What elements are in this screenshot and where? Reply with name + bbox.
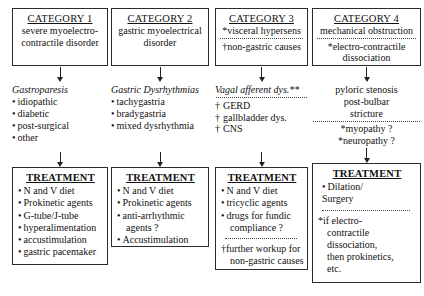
- category-line: †non-gastric causes: [219, 41, 304, 53]
- treatment-item: N and V diet: [221, 185, 303, 197]
- arrow-head: [259, 77, 265, 82]
- category-title: CATEGORY 1: [16, 13, 104, 24]
- category-title: CATEGORY 2: [115, 13, 205, 24]
- middle-block-2: Gastric Dysrhythmias tachygastria bradyg…: [111, 84, 209, 132]
- middle-item: CNS: [215, 123, 308, 135]
- treatment-title: TREATMENT: [221, 172, 303, 184]
- category-line: *visceral hypersens: [219, 25, 304, 37]
- arrow-down-icon: [156, 152, 165, 167]
- middle-item: diabetic: [12, 108, 108, 120]
- flow-column-category-4: CATEGORY 4 mechanical obstruction *elect…: [312, 0, 421, 296]
- middle-item: other: [12, 132, 108, 144]
- middle-block-3: Vagal afferent dys.** GERD gallbladder d…: [215, 84, 308, 135]
- arrow-down-icon: [257, 67, 266, 82]
- dotted-separator: [317, 38, 416, 39]
- category-box-4: CATEGORY 4 mechanical obstruction *elect…: [312, 8, 421, 66]
- arrow-head: [364, 77, 370, 82]
- treatment-item: tricyclic agents: [221, 197, 303, 209]
- arrow-down-icon: [56, 152, 65, 167]
- treatment-note: non-gastric causes: [221, 255, 303, 267]
- middle-item: GERD: [215, 100, 308, 112]
- flowchart-canvas: CATEGORY 1 severe myoelectro- contractil…: [0, 0, 424, 296]
- treatment-note: dissociation,: [318, 239, 416, 251]
- middle-item: *myopathy ?: [312, 123, 421, 135]
- treatment-item: Prokinetic agents: [117, 197, 204, 209]
- category-line: mechanical obstruction: [316, 25, 417, 37]
- arrow-down-icon: [362, 67, 371, 82]
- middle-block-1: Gastroparesis idiopathic diabetic post-s…: [12, 84, 108, 143]
- middle-item: mixed dysrhythmia: [111, 120, 209, 132]
- middle-item: post-surgical: [12, 120, 108, 132]
- treatment-item: Accustimulation: [117, 234, 204, 246]
- middle-item: tachygastria: [111, 96, 209, 108]
- treatment-title: TREATMENT: [117, 172, 204, 184]
- middle-item: gallbladder dys.: [215, 112, 308, 124]
- category-line: disorder: [115, 37, 205, 49]
- category-title: CATEGORY 3: [219, 13, 304, 24]
- treatment-note: †further workup for: [221, 243, 303, 255]
- treatment-title: TREATMENT: [318, 168, 416, 180]
- category-line: severe myoelectro-: [16, 25, 104, 37]
- category-line: contractile disorder: [16, 37, 104, 49]
- category-box-2: CATEGORY 2 gastric myoelectrical disorde…: [111, 8, 209, 66]
- middle-line: pyloric stenosis: [312, 84, 421, 96]
- dotted-separator: [322, 210, 410, 211]
- treatment-box-4: TREATMENT Dilation/ Surgery *if electro-…: [312, 163, 421, 283]
- middle-heading: Vagal afferent dys.**: [215, 84, 308, 96]
- category-line: dissociation: [316, 52, 417, 64]
- treatment-item: drugs for fundic: [221, 210, 303, 222]
- category-title: CATEGORY 4: [316, 13, 417, 24]
- dotted-separator: [216, 97, 307, 98]
- arrow-head: [57, 77, 63, 82]
- treatment-item: Surgery: [318, 193, 416, 205]
- arrow-down-icon: [362, 148, 371, 163]
- category-box-1: CATEGORY 1 severe myoelectro- contractil…: [12, 8, 108, 66]
- flow-column-category-3: CATEGORY 3 *visceral hypersens †non-gast…: [215, 0, 308, 296]
- treatment-title: TREATMENT: [18, 172, 103, 184]
- middle-line: post-bulbar: [312, 96, 421, 108]
- dotted-separator: [220, 38, 303, 39]
- treatment-item: hyperalimentation: [18, 222, 103, 234]
- arrow-down-icon: [56, 67, 65, 82]
- treatment-item: N and V diet: [18, 185, 103, 197]
- treatment-item: Dilation/: [318, 181, 416, 193]
- middle-line: stricture: [312, 108, 421, 120]
- category-line: gastric myoelectrical: [115, 25, 205, 37]
- treatment-note: etc.: [318, 263, 416, 275]
- treatment-box-3: TREATMENT N and V diet tricyclic agents …: [215, 167, 308, 270]
- treatment-box-2: TREATMENT N and V diet Prokinetic agents…: [111, 167, 209, 247]
- category-box-3: CATEGORY 3 *visceral hypersens †non-gast…: [215, 8, 308, 66]
- category-line: *electro-contractile: [316, 41, 417, 53]
- middle-item: idiopathic: [12, 96, 108, 108]
- arrow-down-icon: [257, 152, 266, 167]
- flow-column-category-1: CATEGORY 1 severe myoelectro- contractil…: [12, 0, 108, 296]
- treatment-item: G-tube/J-tube: [18, 210, 103, 222]
- treatment-item: agents ?: [117, 222, 204, 234]
- dotted-separator: [313, 121, 420, 122]
- middle-item: bradygastria: [111, 108, 209, 120]
- treatment-box-1: TREATMENT N and V diet Prokinetic agents…: [12, 167, 108, 265]
- treatment-item: anti-arrhythmic: [117, 210, 204, 222]
- treatment-item: gastric pacemaker: [18, 246, 103, 258]
- arrow-head: [157, 77, 163, 82]
- middle-heading: Gastroparesis: [12, 84, 108, 96]
- middle-block-4: pyloric stenosis post-bulbar stricture *…: [312, 84, 421, 147]
- treatment-note: *if electro-: [318, 215, 416, 227]
- middle-item: *neuropathy ?: [312, 135, 421, 147]
- treatment-item: accustimulation: [18, 234, 103, 246]
- treatment-item: compliance ?: [221, 222, 303, 234]
- treatment-item: N and V diet: [117, 185, 204, 197]
- treatment-item: Prokinetic agents: [18, 197, 103, 209]
- dotted-separator: [225, 238, 297, 239]
- treatment-note: then prokinetics,: [318, 251, 416, 263]
- flow-column-category-2: CATEGORY 2 gastric myoelectrical disorde…: [111, 0, 209, 296]
- arrow-down-icon: [156, 67, 165, 82]
- treatment-note: contractile: [318, 227, 416, 239]
- middle-heading: Gastric Dysrhythmias: [111, 84, 209, 96]
